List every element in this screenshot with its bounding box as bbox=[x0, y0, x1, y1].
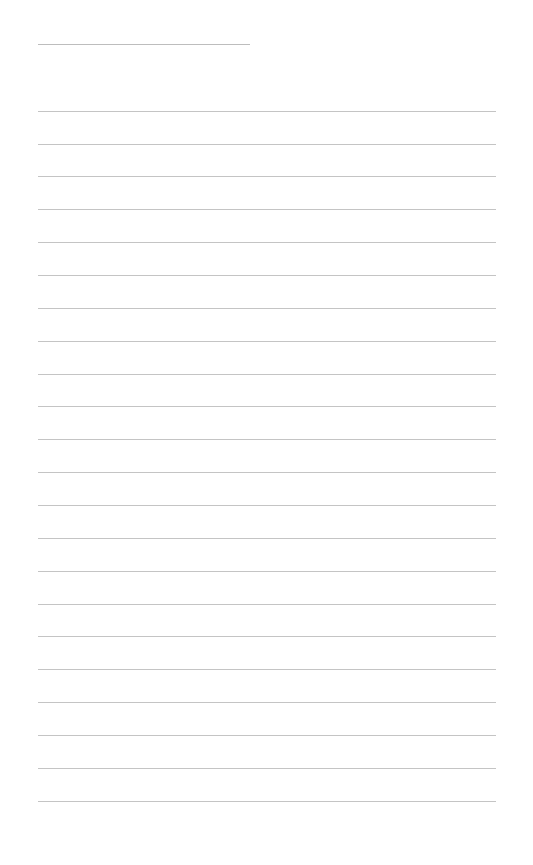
ruled-line bbox=[38, 275, 496, 276]
ruled-line bbox=[38, 636, 496, 637]
ruled-line bbox=[38, 439, 496, 440]
ruled-lines bbox=[38, 0, 496, 865]
ruled-line bbox=[38, 176, 496, 177]
ruled-line bbox=[38, 801, 496, 802]
ruled-line bbox=[38, 374, 496, 375]
ruled-line bbox=[38, 702, 496, 703]
ruled-line bbox=[38, 308, 496, 309]
ruled-line bbox=[38, 111, 496, 112]
ruled-line bbox=[38, 341, 496, 342]
ruled-line bbox=[38, 242, 496, 243]
ruled-line bbox=[38, 669, 496, 670]
ruled-line bbox=[38, 735, 496, 736]
ruled-line bbox=[38, 538, 496, 539]
ruled-line bbox=[38, 571, 496, 572]
ruled-line bbox=[38, 209, 496, 210]
ruled-line bbox=[38, 406, 496, 407]
ruled-line bbox=[38, 144, 496, 145]
ruled-line bbox=[38, 604, 496, 605]
notepad-page bbox=[0, 0, 533, 865]
ruled-line bbox=[38, 505, 496, 506]
ruled-line bbox=[38, 768, 496, 769]
ruled-line bbox=[38, 472, 496, 473]
